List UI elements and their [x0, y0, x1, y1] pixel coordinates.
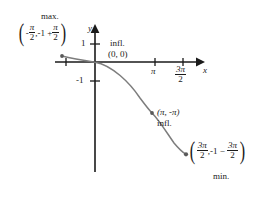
min-minus-sign: − — [220, 146, 225, 156]
max-y-fraction: π2 — [52, 23, 59, 42]
inflection-pi-caption: infl. — [157, 119, 172, 128]
point-inflection-pi — [150, 111, 154, 115]
x-tick-label-3pi-over-2: 3π 2 — [175, 66, 186, 85]
min-close-paren: ) — [240, 142, 245, 161]
inflection-origin-caption: infl. — [110, 39, 125, 48]
min-x-fraction: 3π2 — [197, 141, 208, 160]
max-point-label: (-π2,-1 +π2) — [17, 24, 67, 43]
curve-path — [62, 56, 186, 154]
y-axis-label: y — [88, 24, 92, 33]
x-axis-label: x — [203, 66, 207, 75]
graph-figure: x y 1 -1 π 3π 2 max. (-π2,-1 +π2) infl. … — [0, 0, 266, 197]
min-y-value: -1 − 3π2 — [210, 142, 238, 161]
max-x-value: -π2 — [26, 24, 36, 43]
y-axis — [91, 24, 100, 172]
y-tick-label-1: 1 — [81, 39, 86, 48]
min-y-fraction: 3π2 — [227, 141, 238, 160]
inflection-origin-point: (0, 0) — [108, 50, 128, 59]
point-max — [60, 54, 64, 58]
x-tick-label-pi: π — [151, 67, 156, 76]
max-caption: max. — [41, 12, 59, 21]
max-open-paren: ( — [19, 24, 24, 43]
curve-points — [60, 54, 188, 156]
min-caption: min. — [213, 172, 229, 181]
min-open-paren: ( — [190, 142, 195, 161]
max-y-value: -1 +π2 — [37, 24, 58, 43]
max-close-paren: ) — [60, 24, 65, 43]
max-x-fraction: π2 — [29, 23, 36, 42]
inflection-pi-point: (π, -π) — [157, 108, 180, 117]
y-tick-label-neg1: -1 — [76, 76, 84, 85]
x-tick-fraction: 3π 2 — [175, 65, 186, 84]
min-point-label: (3π2,-1 − 3π2) — [188, 142, 247, 161]
